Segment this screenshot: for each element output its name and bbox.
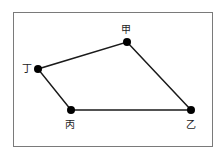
label-yi: 乙 (186, 120, 196, 130)
point-ding (34, 65, 42, 73)
quadrilateral-outline (38, 42, 191, 110)
quadrilateral-diagram (0, 0, 224, 161)
point-yi (187, 106, 195, 114)
label-ding: 丁 (22, 64, 32, 74)
point-jia (123, 38, 131, 46)
label-bing: 丙 (65, 120, 75, 130)
label-jia: 甲 (121, 25, 131, 35)
point-bing (67, 106, 75, 114)
